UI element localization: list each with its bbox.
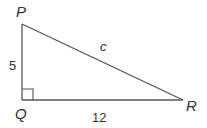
vertex-label-p: P (16, 3, 26, 20)
side-label-pr: c (100, 39, 107, 54)
vertex-label-q: Q (15, 105, 27, 122)
right-angle-marker (22, 89, 33, 100)
side-pr-hypotenuse (22, 24, 183, 100)
triangle-diagram: P Q R 5 c 12 (0, 0, 207, 128)
side-label-pq: 5 (9, 58, 16, 73)
vertex-label-r: R (186, 97, 197, 114)
side-label-qr: 12 (92, 110, 106, 125)
